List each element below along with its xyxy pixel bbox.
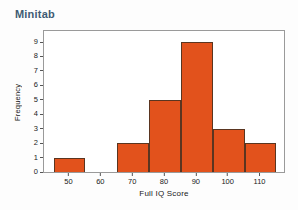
- x-axis-tick: 80: [160, 173, 168, 186]
- x-axis-title: Full IQ Score: [43, 189, 285, 198]
- y-axis-tick: 0: [34, 167, 43, 177]
- y-axis-tick: 5: [34, 95, 43, 105]
- y-axis-tick: 1: [34, 153, 43, 163]
- x-axis-tick-mark: [132, 173, 133, 176]
- x-axis-tick: 50: [64, 173, 72, 186]
- histogram-bar: [213, 129, 245, 172]
- histogram-chart: Frequency 0123456789 5060708090100110 Fu…: [0, 0, 298, 210]
- x-axis-tick-mark: [227, 173, 228, 176]
- x-axis-tick-mark: [259, 173, 260, 176]
- y-axis-tick: 2: [34, 138, 43, 148]
- x-axis-tick: 90: [192, 173, 200, 186]
- y-axis-tick: 8: [34, 51, 43, 61]
- y-axis-tick: 7: [34, 66, 43, 76]
- x-axis-tick-label: 110: [254, 177, 266, 186]
- histogram-bar: [245, 143, 277, 172]
- y-axis-tick: 3: [34, 124, 43, 134]
- x-axis-tick-mark: [164, 173, 165, 176]
- x-axis-tick-label: 90: [192, 177, 200, 186]
- plot-area: [43, 30, 285, 173]
- y-axis-tick: 6: [34, 80, 43, 90]
- x-axis-tick-label: 50: [64, 177, 72, 186]
- x-axis-tick-label: 100: [221, 177, 234, 186]
- y-axis-ticks: 0123456789: [0, 30, 43, 173]
- x-axis-tick-mark: [68, 173, 69, 176]
- bars-layer: [44, 31, 284, 172]
- x-axis-tick: 70: [128, 173, 136, 186]
- x-axis-tick-mark: [100, 173, 101, 176]
- x-axis-ticks: 5060708090100110: [43, 173, 285, 189]
- y-axis-tick: 4: [34, 109, 43, 119]
- histogram-bar: [181, 42, 213, 172]
- x-axis-tick: 110: [254, 173, 266, 186]
- histogram-bar: [54, 158, 86, 172]
- x-axis-tick-label: 60: [96, 177, 104, 186]
- x-axis-tick: 60: [96, 173, 104, 186]
- histogram-bar: [117, 143, 149, 172]
- x-axis-tick-label: 80: [160, 177, 168, 186]
- y-axis-tick: 9: [34, 37, 43, 47]
- x-axis-tick: 100: [221, 173, 234, 186]
- x-axis-tick-mark: [195, 173, 196, 176]
- histogram-bar: [149, 100, 181, 172]
- x-axis-tick-label: 70: [128, 177, 136, 186]
